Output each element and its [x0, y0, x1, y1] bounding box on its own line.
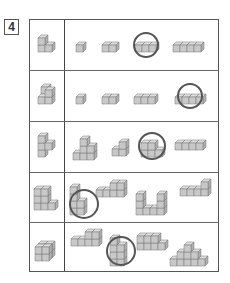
- cube-drawings: [0, 0, 230, 283]
